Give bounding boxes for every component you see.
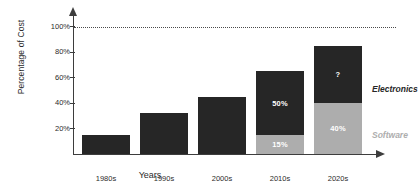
y-tick-label: 80%: [55, 47, 70, 57]
bar-segment-electronics[interactable]: [140, 113, 188, 154]
y-tick: 40%: [0, 98, 79, 108]
x-tick-label: 1980s: [82, 174, 130, 183]
plot-area: 1980s1990s2000s50%15%2010s?40%2020s: [74, 14, 378, 154]
bar-group[interactable]: [140, 113, 188, 154]
bar-segment-electronics[interactable]: [82, 135, 130, 154]
bar-value-label: 40%: [330, 124, 346, 133]
x-tick-label: 2010s: [256, 174, 304, 183]
y-tick: 100%: [0, 22, 79, 32]
y-tick: 20%: [0, 124, 79, 134]
bar-group[interactable]: ?40%: [314, 46, 362, 154]
bar-segment-software[interactable]: 15%: [256, 135, 304, 154]
legend-item-electronics: Electronics: [372, 84, 418, 94]
x-tick-label: 1990s: [140, 174, 188, 183]
x-tick-label: 2000s: [198, 174, 246, 183]
y-tick: 60%: [0, 73, 79, 83]
bar-group[interactable]: [198, 97, 246, 154]
bar-segment-software[interactable]: 40%: [314, 103, 362, 154]
bar-group[interactable]: [82, 135, 130, 154]
bar-segment-electronics[interactable]: [198, 97, 246, 154]
legend-item-software: Software: [372, 130, 408, 140]
x-axis-line: [73, 154, 378, 155]
y-tick-label: 60%: [55, 73, 70, 83]
y-tick-label: 100%: [51, 22, 70, 32]
y-tick: 80%: [0, 47, 79, 57]
bar-value-label: ?: [336, 70, 341, 79]
y-tick-label: 40%: [55, 98, 70, 108]
bar-group[interactable]: 50%15%: [256, 71, 304, 154]
bar-segment-electronics[interactable]: ?: [314, 46, 362, 103]
x-tick-label: 2020s: [314, 174, 362, 183]
bar-value-label: 15%: [272, 140, 288, 149]
y-tick-label: 20%: [55, 124, 70, 134]
bar-segment-electronics[interactable]: 50%: [256, 71, 304, 135]
bar-value-label: 50%: [272, 99, 288, 108]
